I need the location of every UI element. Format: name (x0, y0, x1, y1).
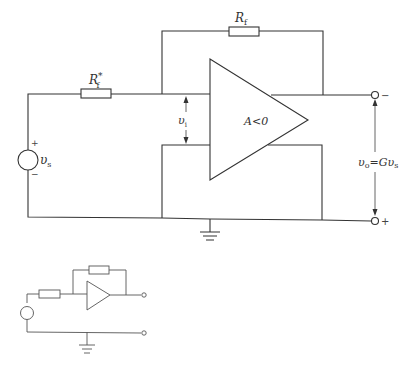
source-label: υs (40, 153, 51, 169)
input-resistor-label: R*f (88, 71, 103, 90)
output-terminal-bottom (372, 218, 379, 225)
ground-icon (200, 219, 220, 240)
thumb-input-resistor (39, 290, 60, 298)
terminal-minus: − (381, 90, 389, 101)
feedback-resistor-label: Rf (234, 11, 248, 27)
thumb-feedback-resistor (89, 266, 109, 274)
input-resistor (81, 89, 111, 98)
feedback-resistor (229, 27, 259, 36)
output-voltage-label: υo=Gυs (358, 156, 398, 170)
terminal-plus: + (381, 216, 389, 227)
circuit-diagram: Rf R*f + − υs A<0 − + (0, 0, 409, 373)
thumb-input-wire (27, 294, 87, 303)
thumb-amplifier-triangle (87, 281, 110, 310)
arrowhead-down-icon (184, 137, 189, 144)
thumbnail-circuit (21, 266, 147, 353)
arrowhead-up-icon (373, 99, 378, 106)
voltage-source (18, 150, 38, 170)
bottom-rail (28, 170, 371, 221)
amplifier-label: A<0 (243, 115, 268, 128)
output-lower-wire (268, 145, 322, 220)
thumb-bottom-rail (27, 320, 141, 334)
arrowhead-up-icon (184, 96, 189, 103)
thumb-ground-icon (79, 332, 95, 353)
input-voltage-label: υi (178, 114, 188, 129)
source-plus: + (31, 138, 39, 148)
source-minus: − (31, 169, 39, 179)
arrowhead-down-icon (373, 209, 378, 216)
main-circuit: Rf R*f + − υs A<0 − + (18, 11, 398, 240)
thumb-output-terminal-bottom (142, 331, 146, 335)
noninverting-wire (162, 145, 210, 218)
thumb-output-terminal-top (142, 293, 146, 297)
thumb-voltage-source (21, 307, 34, 320)
feedback-wire (162, 31, 323, 95)
output-terminal-top (372, 92, 379, 99)
